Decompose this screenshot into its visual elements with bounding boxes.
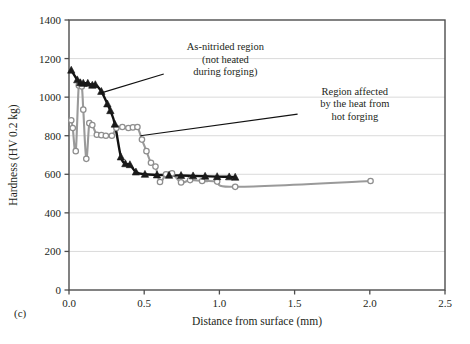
data-point-marker bbox=[368, 178, 373, 183]
data-point-marker bbox=[153, 164, 158, 169]
data-point-marker bbox=[109, 133, 114, 138]
y-tick-label: 400 bbox=[45, 207, 62, 219]
x-tick-label: 1.0 bbox=[213, 297, 227, 309]
panel-label: (c) bbox=[14, 307, 27, 320]
data-point-marker bbox=[70, 125, 75, 130]
x-tick-label: 0.0 bbox=[62, 297, 76, 309]
data-point-marker bbox=[144, 148, 149, 153]
data-point-marker bbox=[103, 133, 108, 138]
y-tick-label: 1000 bbox=[39, 91, 62, 103]
data-point-marker bbox=[139, 137, 144, 142]
annotation-as-nitrided-line-1: As-nitrided region bbox=[187, 41, 265, 52]
data-point-marker bbox=[135, 124, 140, 129]
data-point-marker bbox=[81, 107, 86, 112]
y-tick-label: 1200 bbox=[39, 53, 62, 65]
annotation-as-nitrided-line-2: (not heated bbox=[202, 54, 250, 66]
data-point-marker bbox=[84, 156, 89, 161]
data-point-marker bbox=[107, 107, 114, 114]
y-tick-label: 200 bbox=[45, 245, 62, 257]
data-point-marker bbox=[73, 148, 78, 153]
figure-panel-c: 0200400600800100012001400 0.00.51.01.52.… bbox=[0, 0, 470, 344]
data-point-marker bbox=[120, 124, 125, 129]
y-tick-label: 0 bbox=[56, 284, 62, 296]
x-tick-label: 2.5 bbox=[438, 297, 452, 309]
data-point-marker bbox=[90, 122, 95, 127]
data-point-marker bbox=[157, 179, 162, 184]
y-tick-label: 600 bbox=[45, 168, 62, 180]
annotation-heat-affected-line-1: Region affected bbox=[321, 86, 388, 97]
hardness-depth-chart: 0200400600800100012001400 0.00.51.01.52.… bbox=[0, 0, 470, 344]
annotation-as-nitrided-line-3: during forging) bbox=[193, 66, 258, 78]
grid-lines bbox=[69, 59, 445, 252]
annotation-as-nitrided: As-nitrided region (not heated during fo… bbox=[187, 41, 265, 78]
data-point-marker bbox=[232, 184, 237, 189]
x-axis-ticks: 0.00.51.01.52.02.5 bbox=[62, 290, 452, 309]
y-tick-label: 1400 bbox=[39, 14, 62, 26]
x-tick-label: 2.0 bbox=[363, 297, 377, 309]
annotation-pointer-line bbox=[101, 74, 163, 93]
annotation-pointer-line bbox=[140, 114, 297, 136]
y-axis-label: Hardness (HV 0.2 kg) bbox=[7, 104, 20, 206]
x-axis-label: Distance from surface (mm) bbox=[192, 315, 322, 328]
x-tick-label: 0.5 bbox=[137, 297, 151, 309]
annotation-heat-affected-line-3: hot forging bbox=[331, 111, 379, 122]
annotation-heat-affected: Region affected by the heat from hot for… bbox=[320, 86, 389, 122]
annotation-heat-affected-line-2: by the heat from bbox=[320, 98, 389, 109]
plot-frame bbox=[69, 20, 445, 290]
data-point-marker bbox=[178, 180, 183, 185]
data-point-marker bbox=[111, 120, 118, 127]
data-point-marker bbox=[117, 153, 124, 160]
y-tick-label: 800 bbox=[45, 130, 62, 142]
y-axis-ticks: 0200400600800100012001400 bbox=[39, 14, 69, 296]
data-point-marker bbox=[69, 118, 74, 123]
x-tick-label: 1.5 bbox=[288, 297, 302, 309]
